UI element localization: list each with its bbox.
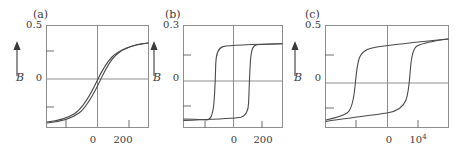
panel-c-ytick-top: 0.5 <box>293 19 321 30</box>
panel-a-b-arrow-icon <box>10 40 24 78</box>
panel-a-ytick-top: 0.5 <box>14 19 42 30</box>
panel-b-b-arrow-icon <box>147 40 161 78</box>
panel-a-xtick-zero: 0 <box>85 134 101 145</box>
panel-b-ytick-top: 0.3 <box>151 19 179 30</box>
panel-c-xtick-zero: 0 <box>381 134 397 145</box>
panel-b-plot <box>183 25 283 133</box>
panel-c-xtick-power-exp: 4 <box>422 133 426 141</box>
panel-a: (a) 0.5 0 B 0 200 <box>0 0 155 165</box>
panel-a-xtick-200: 200 <box>108 134 138 145</box>
panel-c: (c) 0.5 0 B 0 104 <box>303 0 463 165</box>
panel-c-plot <box>325 25 449 133</box>
panel-b-xtick-200: 200 <box>248 134 278 145</box>
panel-c-xtick-power: 104 <box>403 134 433 145</box>
hysteresis-figure: (a) 0.5 0 B 0 200 (b) 0.3 0 B <box>0 0 463 165</box>
panel-c-xtick-power-base: 10 <box>409 134 422 145</box>
panel-b: (b) 0.3 0 B 0 200 <box>155 0 303 165</box>
panel-c-b-arrow-icon <box>288 40 302 78</box>
panel-a-plot <box>46 25 149 133</box>
panel-b-xtick-zero: 0 <box>226 134 242 145</box>
